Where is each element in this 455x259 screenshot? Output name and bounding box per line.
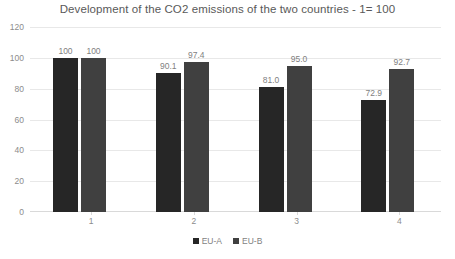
x-axis-tick-label: 3 bbox=[294, 216, 299, 226]
bar-eu-a-2[interactable] bbox=[156, 73, 181, 212]
chart-legend: EU-AEU-B bbox=[0, 236, 455, 246]
legend-label: EU-B bbox=[242, 236, 262, 246]
bar-eu-b-1[interactable] bbox=[81, 58, 106, 212]
bar-group: 90.197.4 bbox=[133, 27, 236, 212]
bar-value-label: 95.0 bbox=[291, 54, 308, 64]
y-axis-tick-label: 80 bbox=[15, 84, 24, 94]
bar-slot-eu-a: 72.9 bbox=[361, 27, 386, 212]
bar-value-label: 97.4 bbox=[188, 50, 205, 60]
x-axis-tick-label: 2 bbox=[191, 216, 196, 226]
bar-group: 72.992.7 bbox=[338, 27, 441, 212]
bar-group: 100100 bbox=[30, 27, 133, 212]
bar-value-label: 90.1 bbox=[160, 61, 177, 71]
x-axis-tick-label: 1 bbox=[89, 216, 94, 226]
bar-value-label: 72.9 bbox=[365, 88, 382, 98]
x-axis-tick-label: 4 bbox=[397, 216, 402, 226]
bar-eu-b-3[interactable] bbox=[287, 66, 312, 212]
bar-slot-eu-b: 92.7 bbox=[389, 27, 414, 212]
plot-area: 10010090.197.481.095.072.992.7 bbox=[30, 27, 441, 212]
chart-title: Development of the CO2 emissions of the … bbox=[0, 3, 455, 15]
x-tick-mark bbox=[91, 212, 92, 215]
y-axis-tick-label: 100 bbox=[10, 53, 24, 63]
bar-value-label: 81.0 bbox=[263, 75, 280, 85]
bar-eu-b-4[interactable] bbox=[389, 69, 414, 212]
x-axis-tick: 4 bbox=[338, 212, 441, 228]
x-axis-tick: 1 bbox=[30, 212, 133, 228]
x-tick-mark bbox=[399, 212, 400, 215]
bar-value-label: 100 bbox=[58, 46, 72, 56]
y-axis: 120100806040200 bbox=[0, 27, 27, 212]
bar-slot-eu-a: 100 bbox=[53, 27, 78, 212]
bar-eu-b-2[interactable] bbox=[184, 62, 209, 212]
bar-value-label: 100 bbox=[86, 46, 100, 56]
x-axis: 1234 bbox=[30, 212, 441, 228]
x-axis-tick: 3 bbox=[236, 212, 339, 228]
legend-swatch-icon bbox=[193, 238, 199, 244]
x-axis-tick: 2 bbox=[133, 212, 236, 228]
y-axis-tick-label: 0 bbox=[19, 207, 24, 217]
bar-eu-a-4[interactable] bbox=[361, 100, 386, 212]
chart-container: Development of the CO2 emissions of the … bbox=[0, 0, 455, 259]
legend-label: EU-A bbox=[202, 236, 222, 246]
bar-groups: 10010090.197.481.095.072.992.7 bbox=[30, 27, 441, 212]
bar-slot-eu-b: 100 bbox=[81, 27, 106, 212]
bar-eu-a-1[interactable] bbox=[53, 58, 78, 212]
legend-item-eu-a[interactable]: EU-A bbox=[193, 236, 222, 246]
y-axis-tick-label: 40 bbox=[15, 145, 24, 155]
y-axis-tick-label: 120 bbox=[10, 22, 24, 32]
legend-item-eu-b[interactable]: EU-B bbox=[233, 236, 262, 246]
bar-group: 81.095.0 bbox=[236, 27, 339, 212]
bar-slot-eu-a: 90.1 bbox=[156, 27, 181, 212]
x-tick-mark bbox=[194, 212, 195, 215]
bar-slot-eu-a: 81.0 bbox=[259, 27, 284, 212]
legend-swatch-icon bbox=[233, 238, 239, 244]
x-tick-mark bbox=[297, 212, 298, 215]
bar-slot-eu-b: 97.4 bbox=[184, 27, 209, 212]
bar-slot-eu-b: 95.0 bbox=[287, 27, 312, 212]
y-axis-tick-label: 20 bbox=[15, 176, 24, 186]
bar-value-label: 92.7 bbox=[393, 57, 410, 67]
y-axis-tick-label: 60 bbox=[15, 115, 24, 125]
bar-eu-a-3[interactable] bbox=[259, 87, 284, 212]
